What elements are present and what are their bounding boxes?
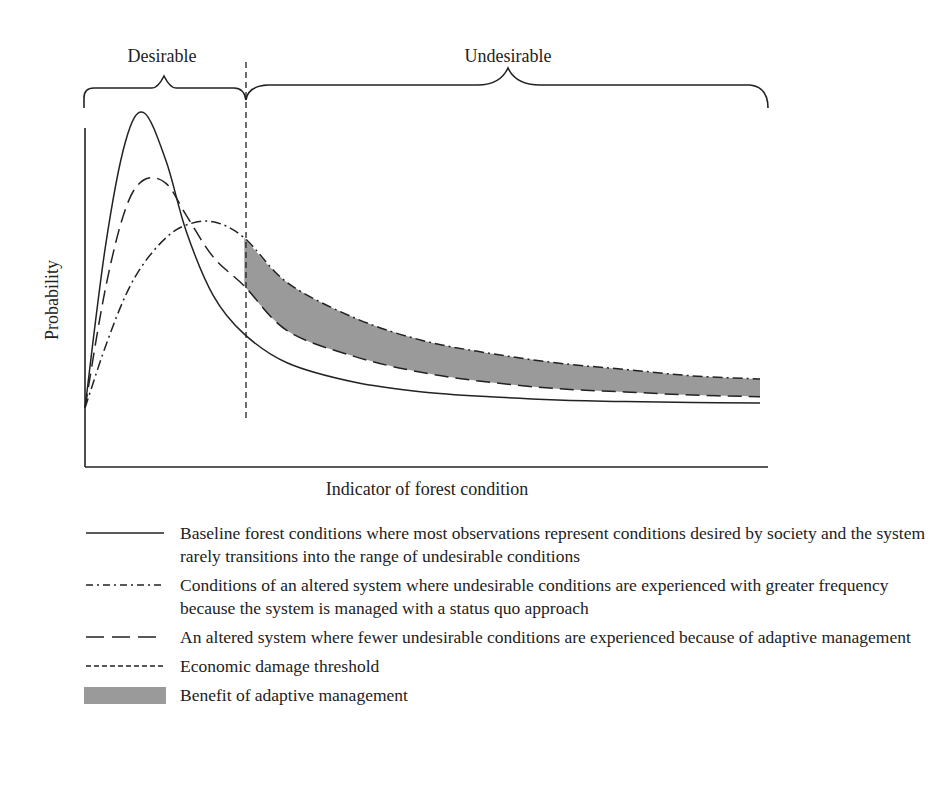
legend-text: Benefit of adaptive management [180,684,408,707]
desirable-label: Desirable [128,46,197,66]
chart-plot: Desirable Undesirable Probability Indica… [0,0,938,510]
desirable-brace [84,76,246,108]
legend-text: Economic damage threshold [180,655,379,678]
legend-item-status-quo: Conditions of an altered system where un… [84,574,934,620]
legend: Baseline forest conditions where most ob… [84,522,934,713]
dash-dot-line-swatch-icon [84,574,166,596]
short-dash-line-swatch-icon [84,655,166,677]
legend-item-baseline: Baseline forest conditions where most ob… [84,522,934,568]
benefit-area [244,238,760,397]
legend-text: Conditions of an altered system where un… [180,574,934,620]
legend-text: An altered system where fewer undesirabl… [180,626,911,649]
legend-item-adaptive: An altered system where fewer undesirabl… [84,626,934,649]
undesirable-brace [246,68,768,108]
legend-text: Baseline forest conditions where most ob… [180,522,934,568]
y-axis-label: Probability [42,260,62,340]
x-axis-label: Indicator of forest condition [326,479,528,499]
solid-line-swatch-icon [84,522,166,544]
legend-item-threshold: Economic damage threshold [84,655,934,678]
long-dash-line-swatch-icon [84,626,166,648]
undesirable-label: Undesirable [465,46,552,66]
legend-item-benefit: Benefit of adaptive management [84,684,934,707]
gray-fill-swatch-icon [84,684,166,706]
